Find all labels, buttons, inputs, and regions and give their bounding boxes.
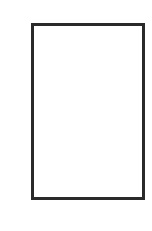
rectangle-shape	[31, 23, 145, 200]
diagram-canvas	[0, 0, 152, 231]
